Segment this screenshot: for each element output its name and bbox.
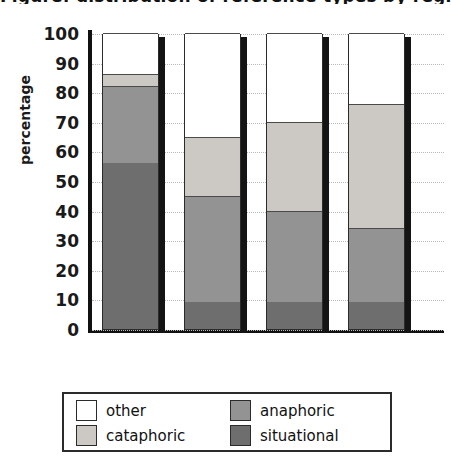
bar-segment-situational[interactable] (103, 163, 158, 329)
legend-swatch-other (76, 400, 97, 421)
legend-item-cataphoric[interactable]: cataphoric (76, 425, 226, 446)
bar-segment-cataphoric[interactable] (349, 104, 404, 228)
y-axis-line (88, 30, 92, 332)
bar-segment-anaphoric[interactable] (185, 196, 240, 303)
legend-swatch-anaphoric (230, 400, 251, 421)
bar-segment-situational[interactable] (349, 302, 404, 329)
y-axis-tick-label: 80 (33, 83, 79, 103)
bar-shadow (159, 37, 165, 333)
stacked-bar[interactable] (266, 34, 323, 330)
legend: otheranaphoriccataphoricsituational (62, 392, 392, 452)
legend-label: cataphoric (106, 427, 185, 445)
legend-item-other[interactable]: other (76, 400, 226, 421)
y-axis-tick-label: 70 (33, 113, 79, 133)
gridline (92, 330, 444, 331)
y-axis-title: percentage (17, 65, 33, 175)
y-axis-tick-label: 30 (33, 231, 79, 251)
chart-title: Figure: distribution of reference types … (0, 0, 451, 4)
y-axis-tick-label: 40 (33, 202, 79, 222)
stacked-bar[interactable] (348, 34, 405, 330)
legend-item-situational[interactable]: situational (230, 425, 380, 446)
y-axis-tick-label: 10 (33, 290, 79, 310)
stacked-bar[interactable] (184, 34, 241, 330)
y-axis-tick-label: 50 (33, 172, 79, 192)
y-axis-tick-label: 60 (33, 142, 79, 162)
legend-label: situational (260, 427, 339, 445)
bar-shadow (323, 37, 329, 333)
legend-label: anaphoric (260, 402, 335, 420)
bar-segment-cataphoric[interactable] (267, 122, 322, 211)
y-axis-tick-label: 100 (33, 24, 79, 44)
bar-segment-anaphoric[interactable] (349, 228, 404, 302)
bar-shadow (241, 37, 247, 333)
legend-label: other (106, 402, 146, 420)
bar-segment-situational[interactable] (185, 302, 240, 329)
bar-segment-other[interactable] (103, 33, 158, 74)
bar-shadow (405, 37, 411, 333)
y-axis-tick-label: 0 (33, 320, 79, 340)
legend-swatch-situational (230, 425, 251, 446)
bar-segment-cataphoric[interactable] (103, 74, 158, 86)
bar-segment-anaphoric[interactable] (103, 86, 158, 163)
plot-area: 1009080706050403020100 CONVFICTNEWSACAD (88, 30, 444, 335)
bar-segment-other[interactable] (267, 33, 322, 122)
legend-item-anaphoric[interactable]: anaphoric (230, 400, 380, 421)
y-axis-tick-label: 90 (33, 54, 79, 74)
bar-segment-anaphoric[interactable] (267, 211, 322, 303)
legend-swatch-cataphoric (76, 425, 97, 446)
bar-segment-other[interactable] (349, 33, 404, 104)
bar-segment-other[interactable] (185, 33, 240, 137)
bar-segment-cataphoric[interactable] (185, 137, 240, 196)
chart-figure: Figure: distribution of reference types … (0, 0, 451, 457)
y-axis-tick-label: 20 (33, 261, 79, 281)
bar-segment-situational[interactable] (267, 302, 322, 329)
stacked-bar[interactable] (102, 34, 159, 330)
